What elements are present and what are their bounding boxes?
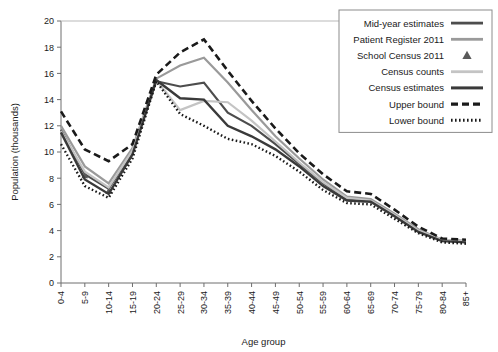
legend-label: Upper bound [389, 99, 444, 110]
chart-legend: Mid-year estimatesPatient Register 2011S… [339, 10, 492, 132]
x-tick-label: 70-74 [390, 291, 400, 314]
legend-label: Census estimates [368, 82, 444, 93]
x-tick-label: 50-54 [295, 291, 305, 314]
legend-label: School Census 2011 [357, 50, 444, 61]
y-tick-label: 14 [44, 95, 54, 105]
x-tick-label: 0-4 [56, 291, 66, 304]
y-tick-label: 16 [44, 69, 54, 79]
x-tick-label: 25-29 [176, 291, 186, 314]
x-tick-label: 85+ [461, 291, 471, 306]
y-tick-label: 0 [49, 278, 54, 288]
chart-canvas: 02468101214161820 0-45-910-1415-1920-242… [0, 0, 498, 352]
legend-label: Patient Register 2011 [353, 34, 444, 45]
y-tick-label: 4 [49, 226, 54, 236]
y-axis-ticks: 02468101214161820 [44, 16, 61, 288]
y-tick-label: 2 [49, 252, 54, 262]
x-axis-ticks: 0-45-910-1415-1920-2425-2930-3435-3940-4… [56, 283, 471, 314]
x-tick-label: 30-34 [199, 291, 209, 314]
x-tick-label: 5-9 [80, 291, 90, 304]
y-axis-title: Population (thousands) [9, 103, 20, 201]
y-tick-label: 12 [44, 121, 54, 131]
x-tick-label: 60-64 [342, 291, 352, 314]
legend-label: Census counts [381, 66, 444, 77]
x-tick-label: 55-59 [318, 291, 328, 314]
x-tick-label: 15-19 [128, 291, 138, 314]
x-tick-label: 20-24 [152, 291, 162, 314]
y-tick-label: 20 [44, 16, 54, 26]
y-tick-label: 8 [49, 174, 54, 184]
x-tick-label: 35-39 [223, 291, 233, 314]
x-tick-label: 80-84 [438, 291, 448, 314]
legend-label: Lower bound [389, 115, 444, 126]
x-tick-label: 40-44 [247, 291, 257, 314]
x-tick-label: 10-14 [104, 291, 114, 314]
y-tick-label: 6 [49, 200, 54, 210]
legend-label: Mid-year estimates [364, 18, 444, 29]
y-tick-label: 10 [44, 147, 54, 157]
x-tick-label: 45-49 [271, 291, 281, 314]
x-axis-title: Age group [242, 336, 286, 347]
y-tick-label: 18 [44, 43, 54, 53]
population-by-age-group-chart: 02468101214161820 0-45-910-1415-1920-242… [0, 0, 498, 352]
x-tick-label: 65-69 [366, 291, 376, 314]
x-tick-label: 75-79 [414, 291, 424, 314]
